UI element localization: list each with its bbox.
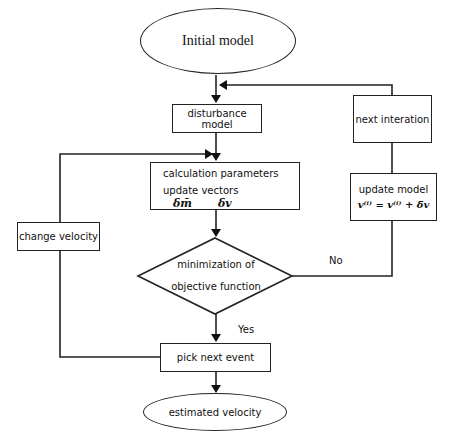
decision-line2: objective function bbox=[148, 276, 284, 298]
pick-next-event-box: pick next event bbox=[160, 343, 271, 372]
start-label: Initial model bbox=[182, 33, 254, 49]
next-iteration-label: next interation bbox=[356, 114, 430, 125]
end-node-estimated-velocity: estimated velocity bbox=[143, 393, 287, 431]
calculation-line1: calculation parameters bbox=[163, 167, 278, 181]
end-label: estimated velocity bbox=[169, 407, 262, 418]
next-iteration-box: next interation bbox=[353, 95, 432, 143]
decision-text: minimization of objective function bbox=[148, 254, 284, 298]
calculation-box: calculation parameters update vectors δm… bbox=[150, 162, 300, 210]
delta-v-symbol: δv bbox=[218, 199, 232, 209]
update-formula: v⁽ⁱ⁾ = v⁽ⁱ⁾ + δ̄v bbox=[358, 198, 429, 212]
start-node-initial-model: Initial model bbox=[140, 8, 296, 74]
no-label: No bbox=[329, 255, 343, 266]
update-model-box: update model v⁽ⁱ⁾ = v⁽ⁱ⁾ + δ̄v bbox=[350, 173, 437, 221]
disturbance-label: disturbance model bbox=[173, 108, 261, 130]
disturbance-model-box: disturbance model bbox=[172, 104, 262, 133]
pick-next-event-label: pick next event bbox=[177, 352, 254, 363]
decision-line1: minimization of bbox=[148, 254, 284, 276]
delta-m-symbol: δm̄ bbox=[173, 199, 192, 209]
change-velocity-label: change velocity bbox=[19, 231, 98, 242]
yes-label: Yes bbox=[238, 324, 254, 335]
update-model-label: update model bbox=[359, 182, 429, 198]
change-velocity-box: change velocity bbox=[17, 222, 100, 251]
